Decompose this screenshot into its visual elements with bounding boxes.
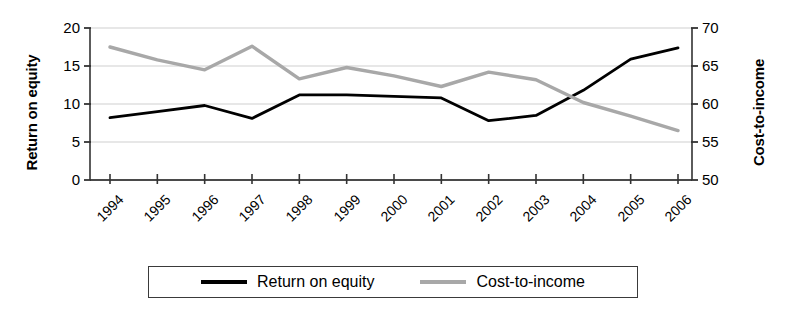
gray-line-swatch bbox=[420, 280, 466, 283]
series-line bbox=[110, 48, 678, 121]
legend-item-label: Cost-to-income bbox=[476, 274, 584, 290]
legend-item[interactable]: Cost-to-income bbox=[420, 274, 584, 290]
legend-item-label: Return on equity bbox=[257, 274, 374, 290]
chart-legend: Return on equityCost-to-income bbox=[148, 266, 638, 298]
black-line-swatch bbox=[201, 280, 247, 283]
series-line bbox=[110, 46, 678, 130]
chart-container: Return on equity Cost-to-income 05101520… bbox=[0, 0, 786, 316]
legend-item[interactable]: Return on equity bbox=[201, 274, 374, 290]
